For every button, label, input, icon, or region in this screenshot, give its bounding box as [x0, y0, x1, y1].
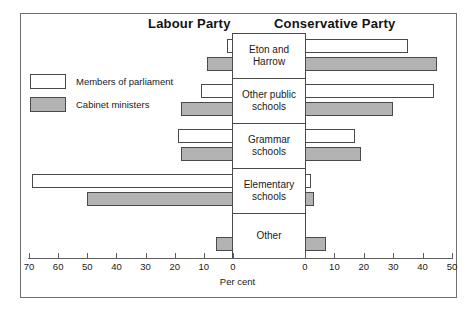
x-tick-right-20: 20 — [359, 261, 370, 272]
bar-conservative-cabinet-eton-and-harrow — [305, 57, 437, 71]
x-tick-right-20-mark — [364, 253, 365, 259]
x-tick-left-30-mark — [146, 253, 147, 259]
x-tick-right-30-mark — [393, 253, 394, 259]
x-tick-left-50: 50 — [82, 261, 93, 272]
bar-conservative-cabinet-other — [305, 237, 326, 251]
bar-labour-cabinet-elementary-schools — [87, 192, 233, 206]
x-tick-left-30: 30 — [140, 261, 151, 272]
x-axis-line — [28, 258, 453, 259]
x-tick-right-30: 30 — [388, 261, 399, 272]
x-axis-caption: Per cent — [0, 276, 475, 287]
x-tick-left-20-mark — [175, 253, 176, 259]
x-tick-left-70-mark — [29, 253, 30, 259]
bar-conservative-cabinet-grammar-schools — [305, 147, 361, 161]
category-label-eton-and-harrow: Eton and Harrow — [233, 34, 305, 79]
x-tick-right-10: 10 — [329, 261, 340, 272]
x-tick-right-10-mark — [334, 253, 335, 259]
x-tick-left-10-mark — [204, 253, 205, 259]
x-tick-left-70: 70 — [24, 261, 35, 272]
x-tick-left-60: 60 — [53, 261, 64, 272]
bar-labour-mp-grammar-schools — [178, 129, 233, 143]
x-tick-left-40-mark — [116, 253, 117, 259]
x-tick-left-0-mark — [233, 253, 234, 259]
x-tick-left-20: 20 — [169, 261, 180, 272]
bar-labour-cabinet-other — [216, 237, 233, 251]
bar-labour-cabinet-grammar-schools — [181, 147, 233, 161]
bar-labour-cabinet-eton-and-harrow — [207, 57, 233, 71]
x-tick-left-10: 10 — [199, 261, 210, 272]
bar-conservative-mp-eton-and-harrow — [305, 39, 408, 53]
x-tick-right-50: 50 — [447, 261, 458, 272]
chart-figure: Labour Party Conservative Party Members … — [0, 0, 475, 313]
bar-conservative-cabinet-elementary-schools — [305, 192, 314, 206]
category-label-elementary-schools: Elementary schools — [233, 169, 305, 214]
x-tick-right-40: 40 — [417, 261, 428, 272]
x-tick-right-0-mark — [305, 253, 306, 259]
x-tick-right-40-mark — [423, 253, 424, 259]
category-label-grammar-schools: Grammar schools — [233, 124, 305, 169]
x-tick-left-60-mark — [58, 253, 59, 259]
x-tick-left-0: 0 — [230, 261, 235, 272]
bar-labour-cabinet-other-public-schools — [181, 102, 233, 116]
category-label-other: Other — [233, 214, 305, 259]
x-tick-left-40: 40 — [111, 261, 122, 272]
x-tick-right-0: 0 — [302, 261, 307, 272]
bar-labour-mp-other-public-schools — [201, 84, 233, 98]
bar-labour-mp-elementary-schools — [32, 174, 233, 188]
bar-conservative-mp-grammar-schools — [305, 129, 355, 143]
bar-conservative-cabinet-other-public-schools — [305, 102, 393, 116]
bar-conservative-mp-other-public-schools — [305, 84, 434, 98]
category-label-other-public-schools: Other public schools — [233, 79, 305, 124]
x-tick-left-50-mark — [87, 253, 88, 259]
category-label-column: Eton and HarrowOther public schoolsGramm… — [232, 33, 306, 259]
x-tick-right-50-mark — [452, 253, 453, 259]
